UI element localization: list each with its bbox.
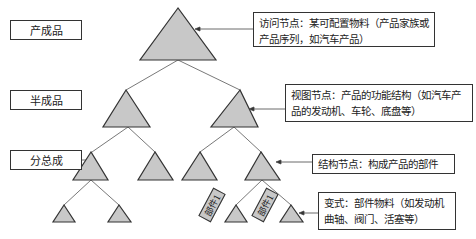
view-node-triangle-left <box>103 90 150 127</box>
callout-access-node: 访问节点：某可配置物料（产品家族或产品序列，如汽车产品） <box>253 12 435 47</box>
level-label-text: 分总成 <box>30 152 63 168</box>
level-label-text: 半成品 <box>30 92 63 108</box>
callout-view-node: 视图节点：产品的功能结构（如汽车产品的发动机、车轮、底盘等） <box>285 84 473 122</box>
structure-node-triangle-3 <box>182 152 217 180</box>
variant-triangle-1 <box>53 205 75 222</box>
access-node-triangle <box>140 8 216 60</box>
callout-structure-node: 结构节点：构成产品的部件 <box>312 154 455 174</box>
level-label-subassembly: 分总成 <box>10 150 82 170</box>
callout-variant: 变式：部件物料（如发动机曲轴、阀门、活塞等） <box>318 192 456 230</box>
structure-node-triangle-4 <box>245 152 280 180</box>
variant-triangle-3 <box>225 205 247 222</box>
level-label-semi-finished: 半成品 <box>10 90 82 110</box>
variant-triangle-2 <box>108 205 131 222</box>
level-label-finished-product: 产成品 <box>10 20 82 40</box>
structure-node-triangle-2 <box>138 152 173 180</box>
tree-edges <box>64 60 291 205</box>
level-label-text: 产成品 <box>30 22 63 38</box>
